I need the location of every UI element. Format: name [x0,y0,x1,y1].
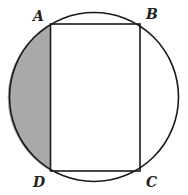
inscribed-rectangle-diagram: A B C D [0,0,188,195]
vertex-label-b: B [145,6,158,22]
vertex-label-a: A [31,8,44,24]
rectangle-abcd [51,24,141,171]
vertex-label-d: D [32,174,46,190]
vertex-label-c: C [146,174,157,190]
shaded-circular-segment [8,24,51,171]
